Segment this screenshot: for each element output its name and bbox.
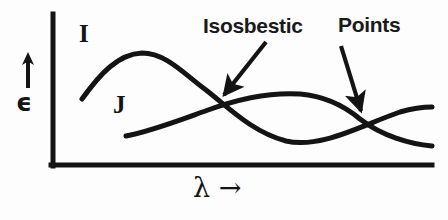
y-axis-label-epsilon: ϵ xyxy=(16,88,32,117)
figure-canvas: Isosbestic Points I J ϵ λ → xyxy=(0,0,448,220)
curve-j-label: J xyxy=(113,91,126,119)
points-arrow xyxy=(341,46,361,111)
points-annotation-label: Points xyxy=(338,13,400,37)
isosbestic-annotation-label: Isosbestic xyxy=(203,14,303,38)
isosbestic-arrow xyxy=(224,42,266,95)
x-axis-label-lambda: λ → xyxy=(193,172,241,203)
y-axis-arrow-icon xyxy=(22,52,34,88)
curve-i-label: I xyxy=(79,20,89,48)
